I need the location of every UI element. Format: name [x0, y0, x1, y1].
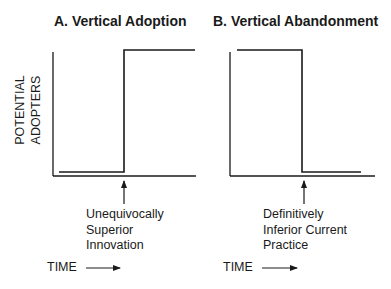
- y-label-line-2: ADOPTERS: [28, 70, 44, 150]
- panel-a-y-axis-label: POTENTIAL ADOPTERS: [12, 70, 44, 150]
- annotation-line: Definitively: [263, 207, 347, 223]
- annotation-line: Unequivocally: [86, 207, 164, 223]
- y-label-line-1: POTENTIAL: [12, 70, 28, 150]
- panel-b-annotation: Definitively Inferior Current Practice: [263, 207, 347, 254]
- annotation-line: Practice: [263, 238, 347, 254]
- panel-b-title: B. Vertical Abandonment: [213, 13, 378, 29]
- panel-a-title: A. Vertical Adoption: [54, 13, 187, 29]
- annotation-line: Inferior Current: [263, 223, 347, 239]
- annotation-line: Superior: [86, 223, 164, 239]
- panel-b-x-axis-label: TIME: [223, 260, 253, 274]
- panel-b-step-curve: [237, 50, 361, 172]
- annotation-line: Innovation: [86, 238, 164, 254]
- panel-a-x-axis-label: TIME: [47, 260, 77, 274]
- panel-a-annotation: Unequivocally Superior Innovation: [86, 207, 164, 254]
- panel-a-step-curve: [59, 50, 195, 172]
